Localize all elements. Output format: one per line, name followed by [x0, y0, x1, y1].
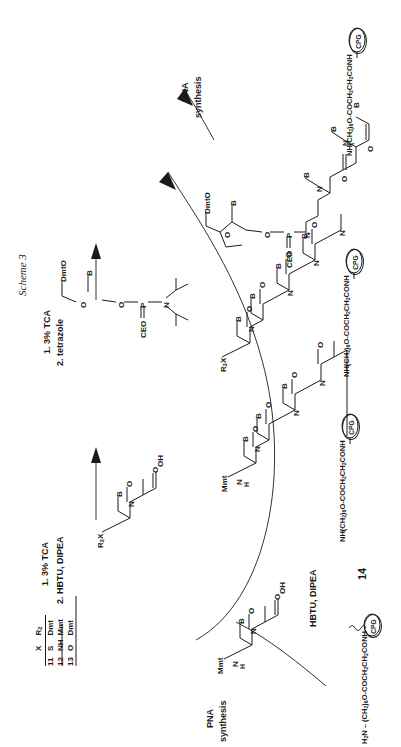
atom-base-bottom: B	[237, 618, 246, 624]
cpg-label-middle: CPG	[346, 249, 364, 275]
atom-o-ring-top: O	[223, 232, 232, 238]
atom-o-top-2: O	[366, 146, 375, 152]
atom-o-bottom-2: O	[273, 594, 282, 600]
table-row: 12 NH Mmt	[56, 615, 66, 666]
atom-o-third-2: O	[264, 402, 273, 408]
atom-o-third-4: O	[316, 342, 325, 348]
atom-base-second-4: B	[300, 233, 309, 239]
atom-n-bottom: N	[249, 628, 258, 634]
atom-base-third-1: B	[241, 436, 250, 442]
bottom-amine-terminus: H2N – (CH2)6O-COCH2CH2CONH	[361, 631, 370, 744]
substituent-table-grid: X R2 11 S Dmt 12 NH Mmt 13 O Dmt	[34, 615, 76, 666]
table-header-x: X	[34, 636, 46, 652]
atom-base-top-1: B	[302, 172, 311, 178]
arrow-hbtu-coupling	[91, 447, 101, 520]
atom-n-third-3: N	[318, 380, 327, 386]
atom-n-reagent: N	[162, 302, 171, 308]
atom-phosphorus: P	[285, 233, 294, 238]
atom-n-third-2: N	[292, 410, 301, 416]
atom-o-second-2: O	[258, 282, 267, 288]
atom-base-second-3: B	[274, 263, 283, 269]
atom-r2x-reagent: R2X	[96, 534, 106, 548]
atom-o-bottom-1: O	[247, 608, 256, 614]
table-cell-x: S	[46, 636, 57, 652]
atom-base-top-3: B	[352, 102, 361, 108]
atom-n-top-3: N	[341, 140, 350, 146]
label-pna-synthesis-line2: synthesis	[218, 700, 228, 742]
table-header-r2: R2	[34, 615, 46, 635]
atom-oh-monomer-reagent: OH	[156, 455, 165, 467]
table-cell-num: 13	[66, 651, 76, 666]
table-cell-x: O	[66, 636, 76, 652]
atom-n-second-3: N	[312, 260, 321, 266]
atom-h-third: H	[243, 482, 251, 487]
linker-chain-lower-text: NH(CH2)6O-COCH2CH2CONH	[338, 440, 347, 542]
label-dna-synthesis-line1: DNA	[180, 83, 190, 103]
atom-n-monomer-reagent: N	[127, 501, 136, 507]
atom-o-top-1: O	[340, 176, 349, 182]
table-cell-num: 12	[56, 651, 66, 666]
linker-chain-middle-text: NH(CH2)6O-COCH2CH2CONH	[342, 275, 351, 377]
reagent-step-tca-1: 1. 3% TCA	[42, 310, 52, 354]
atom-h-bottom: H	[239, 664, 247, 669]
table-cell-r2: Mmt	[56, 615, 66, 635]
atom-o-reagent: O	[117, 302, 126, 308]
reaction-arrow-curve-main	[159, 172, 275, 640]
table-header-row: X R2	[34, 615, 46, 666]
atom-dmto-top: DmtO	[203, 192, 212, 214]
structure-pna-r2x	[222, 214, 341, 357]
label-dna-synthesis-line2: synthesis	[193, 76, 203, 118]
atom-o-3prime: O	[263, 232, 272, 238]
atom-o-third-3: O	[290, 372, 299, 378]
table-cell-r2: Dmt	[46, 615, 57, 635]
cpg-label-lower: CPG	[342, 414, 360, 440]
reagent-step-tetrazole: 2. tetrazole	[55, 319, 65, 366]
table-header-blank	[34, 651, 46, 666]
reagent-bottom-hbtu-dipea: HBTU, DIPEA	[308, 569, 318, 627]
atom-base-third-3: B	[280, 383, 289, 389]
atom-n-third-1: N	[253, 446, 262, 452]
table-row: 13 O Dmt	[66, 615, 76, 666]
atom-n-top-2: N	[315, 186, 324, 192]
atom-r2x-second: R2X	[219, 358, 229, 372]
atom-dmto-reagent: DmtO	[59, 260, 68, 282]
reagent-step-tca-2: 1. 3% TCA	[40, 542, 50, 586]
atom-base-third-2: B	[254, 413, 263, 419]
atom-o-second-1: O	[245, 306, 254, 312]
structure-pna-mmt	[228, 341, 334, 477]
cpg-label-bottom: CPG	[364, 614, 382, 638]
atom-o-third-1: O	[251, 426, 260, 432]
table-cell-r2: Dmt	[66, 615, 76, 635]
cpg-label-top: CPG	[349, 28, 367, 54]
table-cell-num: 11	[46, 651, 57, 666]
atom-base-monomer-reagent: B	[115, 491, 124, 497]
table-row: 11 S Dmt	[46, 615, 57, 666]
bottom-amine-terminus-text: H2N – (CH2)6O-COCH2CH2CONH	[360, 631, 369, 744]
atom-mmt-bottom: Mmt	[216, 658, 225, 674]
atom-o-second-3: O	[284, 252, 293, 258]
label-pna-synthesis-line1: PNA	[205, 709, 215, 728]
atom-base-reagent: B	[85, 270, 94, 276]
scheme-figure-page: Scheme 3 1. 3% TCA 2. tetrazole 1. 3% TC…	[0, 0, 401, 747]
atom-o-monomer-reagent-1: O	[125, 481, 134, 487]
atom-o-ring-reagent: O	[79, 302, 88, 308]
atom-base-top-2: B	[329, 126, 338, 132]
atom-n-second-1: N	[247, 326, 256, 332]
atom-o-second-4: O	[310, 222, 319, 228]
table-cell-x: NH	[56, 636, 66, 652]
compound-number-14: 14	[356, 568, 369, 580]
atom-n-second-2: N	[286, 290, 295, 296]
atom-n-second-4: N	[338, 230, 347, 236]
substituent-table: X R2 11 S Dmt 12 NH Mmt 13 O Dmt	[34, 615, 76, 666]
atom-base-second-2: B	[248, 293, 257, 299]
reagent-step-hbtu-dipea: 2. HBTU, DIPEA	[55, 536, 65, 604]
atom-base-top-sugar: B	[229, 200, 238, 206]
atom-oh-bottom: OH	[278, 582, 287, 594]
atom-o-monomer-reagent-2: O	[151, 467, 160, 473]
atom-p-reagent: P	[139, 303, 148, 308]
atom-mmt-third: Mmt	[220, 476, 229, 492]
linker-chain-lower: NH(CH2)6O-COCH2CH2CONH	[339, 440, 348, 542]
linker-chain-middle: NH(CH2)6O-COCH2CH2CONH	[343, 275, 352, 377]
atom-base-second-1: B	[234, 316, 243, 322]
atom-ceo-reagent: CEO	[139, 321, 148, 338]
